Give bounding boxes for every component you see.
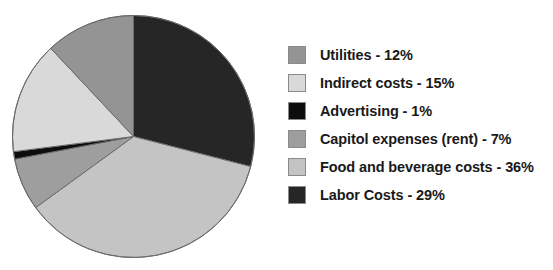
legend-item-indirect-costs[interactable]: Indirect costs - 15% — [288, 69, 546, 97]
legend-swatch-indirect-costs — [288, 74, 306, 92]
legend-swatch-utilities — [288, 46, 306, 64]
legend-item-advertising[interactable]: Advertising - 1% — [288, 97, 546, 125]
legend-swatch-food-and-beverage-costs — [288, 158, 306, 176]
legend-swatch-labor-costs — [288, 186, 306, 204]
legend-label-advertising: Advertising - 1% — [320, 104, 432, 119]
pie-chart-svg — [0, 0, 280, 270]
legend-swatch-capitol-expenses — [288, 130, 306, 148]
legend-item-utilities[interactable]: Utilities - 12% — [288, 41, 546, 69]
legend-label-food-and-beverage-costs: Food and beverage costs - 36% — [320, 160, 534, 175]
legend-label-utilities: Utilities - 12% — [320, 48, 413, 63]
legend-swatch-advertising — [288, 102, 306, 120]
chart-legend: Utilities - 12% Indirect costs - 15% Adv… — [288, 41, 546, 209]
legend-label-indirect-costs: Indirect costs - 15% — [320, 76, 454, 91]
legend-item-labor-costs[interactable]: Labor Costs - 29% — [288, 181, 546, 209]
pie-slice-group — [12, 15, 254, 257]
pie-chart-plot-area — [0, 0, 280, 270]
pie-chart-figure: Utilities - 12% Indirect costs - 15% Adv… — [0, 0, 553, 270]
legend-label-capitol-expenses: Capitol expenses (rent) - 7% — [320, 132, 511, 147]
legend-label-labor-costs: Labor Costs - 29% — [320, 188, 445, 203]
legend-item-capitol-expenses[interactable]: Capitol expenses (rent) - 7% — [288, 125, 546, 153]
legend-item-food-and-beverage-costs[interactable]: Food and beverage costs - 36% — [288, 153, 546, 181]
